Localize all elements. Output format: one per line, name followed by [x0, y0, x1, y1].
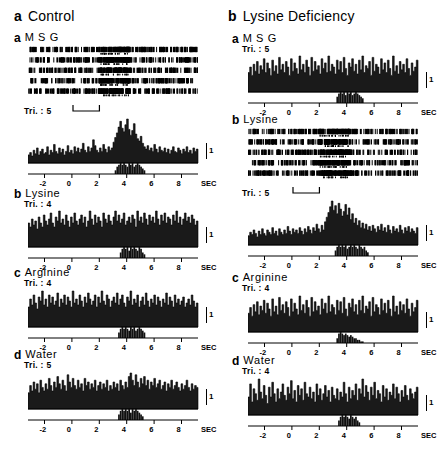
- panel-b-b-stimulus-label: Lysine: [243, 113, 278, 125]
- panel-b-d-axis-tick-5: 8: [397, 431, 401, 440]
- panel-b-b-axis-tick-0: -2: [259, 261, 266, 270]
- panel-a-a-letter: a: [14, 31, 21, 45]
- panel-a-a-axis-tick-3: 4: [122, 179, 126, 188]
- panel-a-a-axis-tick-1: 0: [67, 179, 71, 188]
- panel-a-c-histogram: [28, 289, 200, 329]
- panel-a-a-scalebar-line: [206, 143, 207, 159]
- panel-b-d-axis-tick-4: 6: [369, 431, 373, 440]
- panel-b-c-axis-tick-5: 8: [397, 348, 401, 357]
- panel-b-c-axis-unit-label: SEC: [421, 348, 436, 357]
- panel-b-c-scalebar-label: 1: [429, 316, 433, 324]
- panel-b-d-axis-unit-label: SEC: [421, 431, 436, 440]
- panel-a-c-stimulus-label: Arginine: [25, 266, 70, 278]
- panel-a-b-axis-tick-3: 4: [122, 263, 126, 272]
- panel-b-b-trial-count: Tri. : 5: [242, 188, 269, 198]
- panel-b-c-axis-tick-4: 6: [369, 348, 373, 357]
- panel-b-a-letter: a: [232, 32, 239, 46]
- panel-b-a-axis-tick-1: 0: [287, 108, 291, 117]
- panel-b-d-scalebar-line: [426, 395, 427, 411]
- panel-a-d-histogram: [28, 371, 200, 411]
- column-title-a: aControl: [14, 8, 75, 24]
- panel-a-c-scalebar: 1: [206, 307, 213, 323]
- figure-root: aControlbLysine DeficiencyaM S GTri. : 5…: [0, 0, 443, 449]
- panel-b-d-axis-tick-3: 4: [342, 431, 346, 440]
- panel-b-a-scalebar: 1: [426, 72, 433, 88]
- panel-a-d-axis-tick-4: 6: [149, 425, 153, 434]
- panel-b-d-letter: d: [232, 354, 239, 368]
- panel-a-c-axis-tick-1: 0: [67, 343, 71, 352]
- panel-b-c-axis-tick-2: 2: [314, 348, 318, 357]
- panel-b-a-scalebar-label: 1: [429, 76, 433, 84]
- panel-b-c-axis-tick-3: 4: [342, 348, 346, 357]
- panel-b-b-axis-tick-5: 8: [397, 261, 401, 270]
- panel-b-d-trial-count: Tri. : 4: [242, 366, 269, 376]
- column-title-text-b: Lysine Deficiency: [243, 8, 355, 24]
- panel-b-d-stimulus-label: Water: [243, 354, 275, 366]
- panel-a-b-axis: [28, 256, 200, 265]
- panel-b-a-axis-tick-4: 6: [369, 108, 373, 117]
- panel-a-d-stimulus-label: Water: [25, 348, 57, 360]
- panel-b-c-histogram: [248, 294, 420, 334]
- panel-b-d-axis-tick-0: -2: [259, 431, 266, 440]
- panel-a-a-axis-tick-2: 2: [94, 179, 98, 188]
- panel-a-a-scalebar-label: 1: [209, 147, 213, 155]
- column-letter-b: b: [228, 8, 237, 24]
- panel-b-b-histogram: [248, 199, 420, 247]
- panel-a-a-scalebar: 1: [206, 143, 213, 159]
- panel-b-b-axis-tick-2: 2: [314, 261, 318, 270]
- panel-b-b-axis-unit-label: SEC: [421, 261, 436, 270]
- panel-b-d-axis-tick-2: 2: [314, 431, 318, 440]
- panel-b-a-axis-tick-5: 8: [397, 108, 401, 117]
- panel-b-c-scalebar-line: [426, 312, 427, 328]
- panel-a-b-scalebar: 1: [206, 227, 213, 243]
- panel-a-d-trial-count: Tri. : 5: [24, 360, 51, 370]
- panel-a-a-axis: [28, 172, 200, 181]
- panel-b-a-histogram: [248, 54, 420, 94]
- panel-a-b-histogram: [28, 209, 200, 249]
- panel-a-c-axis-tick-5: 8: [177, 343, 181, 352]
- panel-b-a-stimulus-label: M S G: [243, 32, 277, 44]
- panel-a-a-axis-tick-5: 8: [177, 179, 181, 188]
- panel-a-b-axis-unit-label: SEC: [201, 263, 216, 272]
- panel-b-a-trial-count: Tri. : 5: [242, 44, 269, 54]
- panel-b-b-axis-tick-3: 4: [342, 261, 346, 270]
- panel-b-b-axis-tick-4: 6: [369, 261, 373, 270]
- panel-b-a-axis: [248, 101, 420, 110]
- panel-a-a-axis-unit-label: SEC: [201, 179, 216, 188]
- panel-b-b-axis: [248, 254, 420, 263]
- panel-a-d-axis: [28, 418, 200, 427]
- panel-b-a-scalebar-line: [426, 72, 427, 88]
- panel-b-c-axis-tick-1: 0: [287, 348, 291, 357]
- panel-a-c-axis-tick-3: 4: [122, 343, 126, 352]
- panel-b-a-axis-tick-2: 2: [314, 108, 318, 117]
- panel-b-b-header: bLysine: [232, 114, 278, 126]
- panel-b-d-scalebar: 1: [426, 395, 433, 411]
- panel-a-c-scalebar-line: [206, 307, 207, 323]
- panel-a-b-stimulus-label: Lysine: [25, 187, 60, 199]
- panel-b-b-axis-tick-1: 0: [287, 261, 291, 270]
- panel-a-d-scalebar-label: 1: [209, 393, 213, 401]
- panel-a-c-scalebar-label: 1: [209, 311, 213, 319]
- panel-b-c-scalebar: 1: [426, 312, 433, 328]
- panel-b-b-scalebar-line: [426, 225, 427, 241]
- panel-a-d-axis-unit-label: SEC: [201, 425, 216, 434]
- panel-a-a-stimulus-label: M S G: [25, 31, 59, 43]
- panel-a-b-letter: b: [14, 187, 21, 201]
- panel-a-d-axis-tick-0: -2: [39, 425, 46, 434]
- panel-a-a-header: aM S G: [14, 32, 59, 44]
- panel-b-c-stimulus-label: Arginine: [243, 271, 288, 283]
- panel-b-b-scalebar-label: 1: [429, 229, 433, 237]
- panel-a-d-axis-tick-1: 0: [67, 425, 71, 434]
- panel-a-d-letter: d: [14, 348, 21, 362]
- panel-a-b-axis-tick-5: 8: [177, 263, 181, 272]
- panel-a-d-scalebar-line: [206, 389, 207, 405]
- panel-a-c-trial-count: Tri. : 4: [24, 278, 51, 288]
- panel-a-c-axis: [28, 336, 200, 345]
- panel-a-c-axis-tick-4: 6: [149, 343, 153, 352]
- panel-a-a-axis-tick-4: 6: [149, 179, 153, 188]
- panel-a-c-axis-unit-label: SEC: [201, 343, 216, 352]
- panel-a-b-scalebar-line: [206, 227, 207, 243]
- panel-b-a-axis-unit-label: SEC: [421, 108, 436, 117]
- panel-b-d-histogram: [248, 377, 420, 417]
- column-letter-a: a: [14, 8, 22, 24]
